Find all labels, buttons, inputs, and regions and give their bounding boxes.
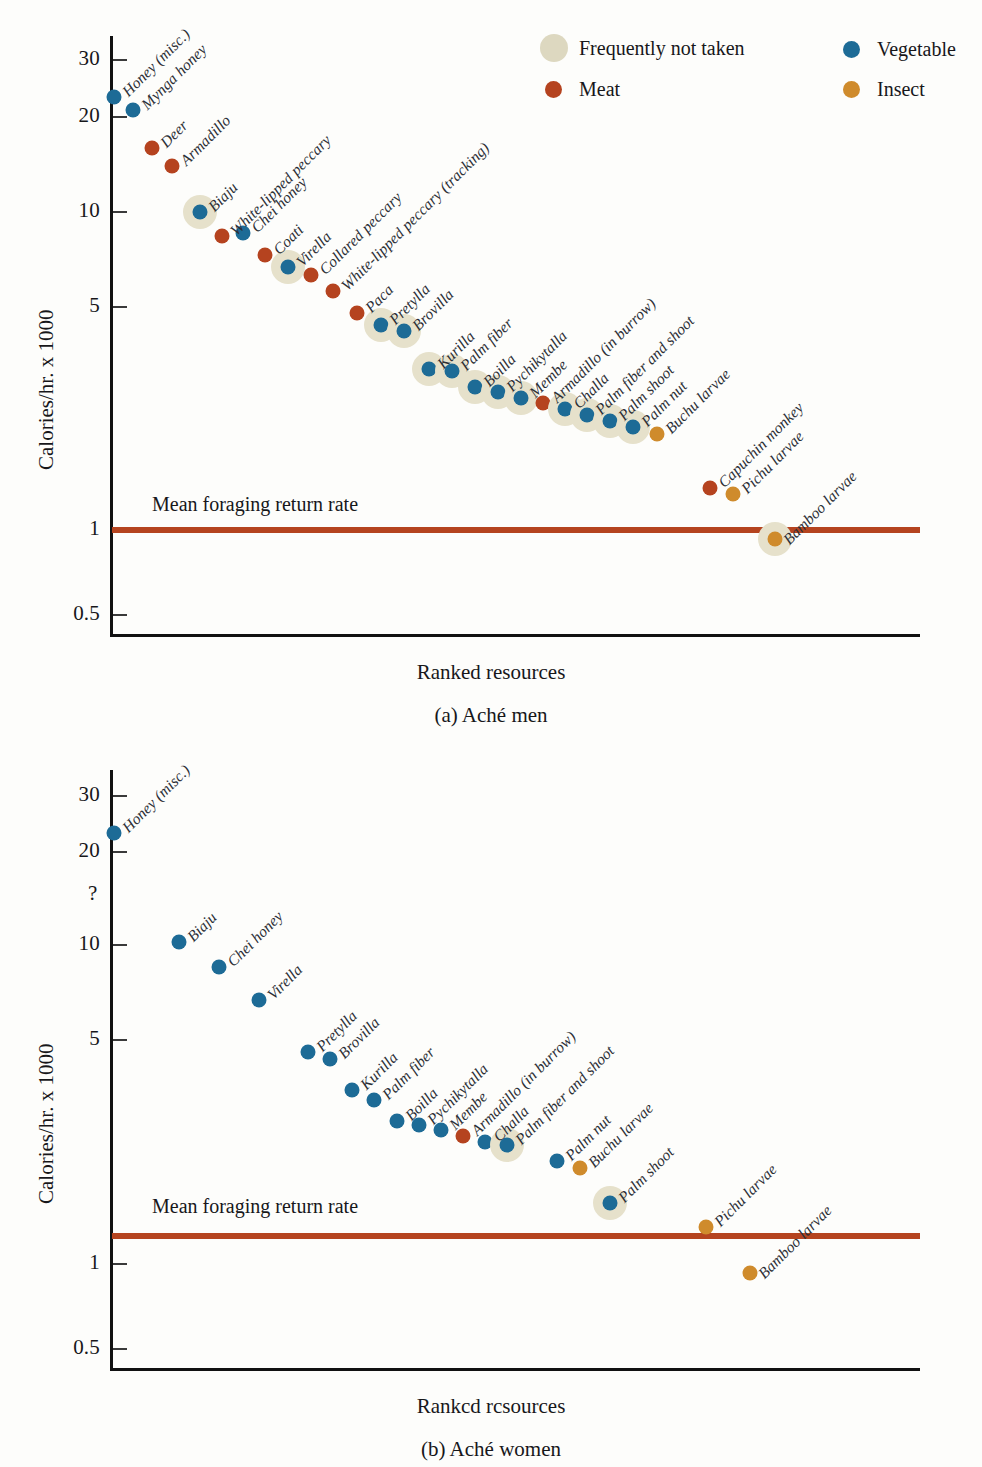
data-point-meat (304, 268, 319, 283)
caption-women: (b) Aché women (0, 1437, 982, 1462)
vegetable-swatch-icon (843, 41, 860, 58)
y-tick (113, 614, 127, 616)
y-tick-label: 20 (22, 103, 100, 128)
data-point-meat (326, 284, 341, 299)
data-point-veg (107, 90, 122, 105)
data-point-meat (703, 481, 718, 496)
y-tick (113, 1348, 127, 1350)
data-point-meat (165, 158, 180, 173)
data-point-veg (107, 825, 122, 840)
legend-label: Insect (877, 78, 925, 101)
y-tick-label: 1 (22, 1250, 100, 1275)
y-tick (113, 851, 127, 853)
data-point-veg (550, 1153, 565, 1168)
x-axis-line-men (110, 634, 920, 637)
y-tick-label: 0.5 (22, 601, 100, 626)
insect-swatch-icon (843, 81, 860, 98)
data-point-veg (172, 935, 187, 950)
y-tick-label: 5 (22, 293, 100, 318)
data-point-veg (345, 1082, 360, 1097)
y-tick (113, 1263, 127, 1265)
mean-line-label-women: Mean foraging return rate (152, 1195, 358, 1218)
data-point-veg (252, 992, 267, 1007)
y-tick (113, 59, 127, 61)
y-axis-title-men: Calories/hr. x 1000 (34, 310, 59, 470)
y-tick-label: 30 (22, 782, 100, 807)
point-label: Honey (misc.) (119, 761, 194, 836)
data-point-veg (367, 1092, 382, 1107)
point-label: Armadillo (177, 111, 235, 169)
y-axis-title-women: Calories/hr. x 1000 (34, 1044, 59, 1204)
data-point-meat (258, 248, 273, 263)
y-tick-label: 0.5 (22, 1335, 100, 1360)
axis-break-question-mark: ? (88, 881, 97, 906)
data-point-veg (126, 103, 141, 118)
point-label: Virella (264, 961, 306, 1003)
point-label: Bamboo larvae (755, 1201, 836, 1282)
caption-men: (a) Aché men (0, 703, 982, 728)
point-label: White-lipped peccary (tracking) (338, 139, 494, 295)
data-point-insect (699, 1220, 714, 1235)
legend-label: Vegetable (877, 38, 956, 61)
y-tick (113, 211, 127, 213)
legend-item-insect: Insect (838, 78, 925, 101)
data-point-veg (212, 960, 227, 975)
y-tick-label: 1 (22, 516, 100, 541)
plot-area-women: Calories/hr. x 1000 0.515102030 ? Mean f… (0, 740, 982, 1467)
mean-line-label-men: Mean foraging return rate (152, 493, 358, 516)
legend-item-vegetable: Vegetable (838, 38, 956, 61)
point-label: Chei honey (224, 908, 287, 971)
data-point-veg (603, 1196, 618, 1211)
data-point-veg (281, 259, 296, 274)
legend-label: Frequently not taken (579, 37, 745, 60)
y-tick (113, 1039, 127, 1041)
legend-item-frequently-not-taken: Frequently not taken (540, 34, 745, 62)
y-tick-label: 20 (22, 838, 100, 863)
data-point-veg (193, 205, 208, 220)
point-label: Biaju (184, 909, 221, 946)
y-tick-label: 30 (22, 46, 100, 71)
data-point-meat (215, 228, 230, 243)
figure-ache-women: Calories/hr. x 1000 0.515102030 ? Mean f… (0, 740, 982, 1467)
x-axis-title-women: Rankcd rcsources (0, 1394, 982, 1419)
meat-swatch-icon (545, 81, 562, 98)
data-point-meat (145, 140, 160, 155)
data-point-veg (301, 1044, 316, 1059)
plot-area-men: Calories/hr. x 1000 0.515102030 Mean for… (0, 0, 982, 740)
y-axis-line-men (110, 36, 113, 636)
frequently-not-taken-swatch-icon (540, 34, 568, 62)
y-tick-label: 10 (22, 198, 100, 223)
y-tick (113, 116, 127, 118)
x-axis-title-men: Ranked resources (0, 660, 982, 685)
legend-label: Meat (579, 78, 620, 101)
y-tick (113, 944, 127, 946)
legend-item-meat: Meat (540, 78, 620, 101)
y-tick-label: 10 (22, 931, 100, 956)
point-label: Bamboo larvae (780, 467, 861, 548)
x-axis-line-women (110, 1368, 920, 1371)
figure-ache-men: Calories/hr. x 1000 0.515102030 Mean for… (0, 0, 982, 740)
point-label: Pichu larvae (711, 1161, 781, 1231)
point-label: Palm shoot (615, 1143, 678, 1206)
y-tick-label: 5 (22, 1026, 100, 1051)
y-axis-line-women (110, 770, 113, 1370)
data-point-veg (390, 1113, 405, 1128)
y-tick (113, 795, 127, 797)
point-label: White-lipped peccary (227, 131, 335, 239)
y-tick (113, 306, 127, 308)
data-point-meat (350, 305, 365, 320)
